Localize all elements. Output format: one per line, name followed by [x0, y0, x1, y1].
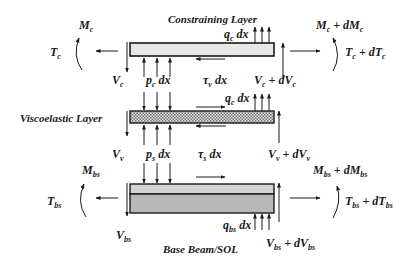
tension-left-label: Tbs — [47, 194, 61, 210]
shear-right-label: Vv + dVv — [268, 147, 310, 163]
base-beam-title: Base Beam/SOL — [162, 243, 238, 255]
tension-right-label: Tbs + dTbs — [345, 194, 393, 210]
load-label: qc dx — [225, 91, 250, 107]
constraining-layer-bar — [130, 43, 274, 56]
moment-right-arc-icon — [333, 38, 338, 71]
load-label: qbs dx — [223, 218, 251, 234]
shear-stress-label: τv dx — [203, 73, 227, 89]
base-beam-group: Mbs Tbs Mbs + dMbs Tbs + dTbs Vbs qbs dx… — [47, 163, 393, 255]
shear-left-label: Vbs — [116, 228, 131, 244]
moment-right-label: Mc + dMc — [315, 18, 364, 34]
viscoelastic-layer-bar — [130, 111, 274, 123]
moment-right-label: Mbs + dMbs — [312, 163, 367, 179]
shear-stress-label: τs dx — [198, 147, 221, 163]
constraining-layer-title: Constraining Layer — [168, 13, 258, 25]
free-body-diagram: Constraining Layer Mc Tc Mc + dMc Tc + d… — [0, 0, 409, 261]
moment-left-arc-icon — [76, 38, 82, 70]
pressure-label: ps dx — [145, 147, 170, 163]
moment-left-label: Mc — [78, 18, 94, 34]
moment-right-arc-icon — [333, 186, 339, 218]
moment-left-arc-icon — [80, 184, 86, 217]
shear-left-label: Vv — [112, 147, 124, 163]
tension-right-label: Tc + dTc — [345, 45, 386, 61]
shear-right-label: Vc + dVc — [254, 73, 296, 89]
viscoelastic-layer-group: Viscoelastic Layer qc dx Vv ps dx τs dx … — [20, 91, 310, 163]
shear-left-label: Vc — [112, 73, 124, 89]
load-label: qc dx — [224, 27, 249, 43]
shear-right-label: Vbs + dVbs — [266, 236, 315, 252]
viscoelastic-layer-title: Viscoelastic Layer — [20, 112, 103, 124]
pressure-label: pc dx — [145, 73, 171, 89]
base-beam-bottom-bar — [130, 194, 274, 213]
constraining-layer-group: Constraining Layer Mc Tc Mc + dMc Tc + d… — [50, 13, 386, 89]
base-beam-top-bar — [130, 184, 274, 194]
moment-left-label: Mbs — [81, 163, 100, 179]
tension-left-label: Tc — [50, 45, 61, 61]
